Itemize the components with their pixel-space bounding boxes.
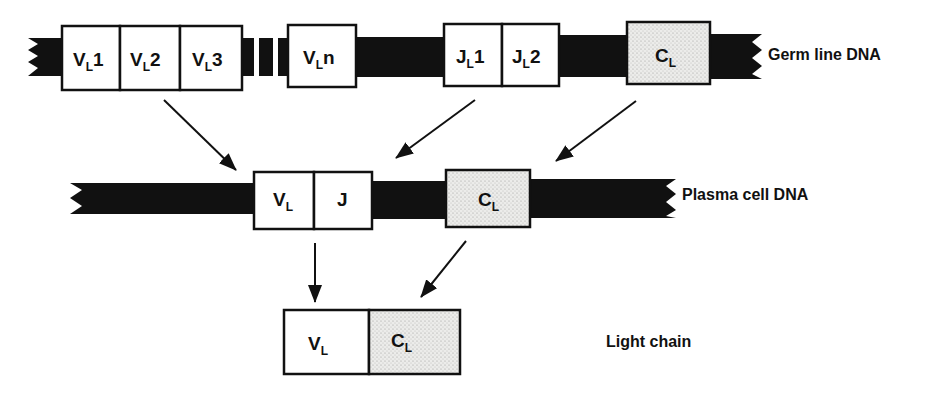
arrow-vl-to-plasma — [164, 100, 236, 170]
segment-cl-plasma: CL — [446, 170, 530, 227]
segment-jl2: JL2 — [502, 24, 559, 86]
segment-vl-light-chain: VL — [284, 310, 369, 374]
light-chain-label: Light chain — [606, 333, 691, 351]
light-chain-row: VL CL — [284, 310, 460, 374]
arrow-cl-to-light-chain — [421, 241, 466, 297]
plasma-cell-dna-label: Plasma cell DNA — [682, 186, 808, 204]
plasma-dna-strand-right — [530, 179, 676, 218]
segment-jl1: JL1 — [444, 24, 502, 86]
plasma-dna-strand-left — [70, 183, 254, 214]
segment-cl-light-chain: CL — [369, 310, 460, 374]
plasma-cell-dna-row: VL J CL — [70, 170, 676, 229]
germline-dna-label: Germ line DNA — [768, 46, 881, 64]
segment-vl2: VL2 — [120, 26, 180, 90]
segment-vl1: VL1 — [62, 26, 120, 90]
germline-dna-strand — [356, 37, 444, 77]
germline-dna-strand-left — [28, 38, 62, 76]
germline-dna-gap-dash — [278, 38, 288, 76]
segment-cl: CL — [627, 22, 710, 84]
germline-dna-row: VL1 VL2 VL3 VLn JL1 JL2 CL — [28, 22, 762, 90]
segment-vl3: VL3 — [180, 26, 242, 90]
germline-dna-strand — [559, 35, 627, 77]
plasma-dna-strand — [372, 181, 446, 219]
germline-dna-gap-dash — [259, 38, 273, 76]
segment-j-plasma: J — [314, 172, 372, 229]
segment-vln: VLn — [288, 25, 356, 87]
germline-dna-strand-right — [710, 34, 762, 79]
arrow-j-to-plasma — [396, 100, 475, 158]
segment-vl-plasma: VL — [254, 172, 314, 229]
germline-dna-strand — [242, 38, 254, 76]
svg-text:J: J — [337, 189, 348, 210]
arrow-cl-to-plasma — [556, 101, 636, 161]
